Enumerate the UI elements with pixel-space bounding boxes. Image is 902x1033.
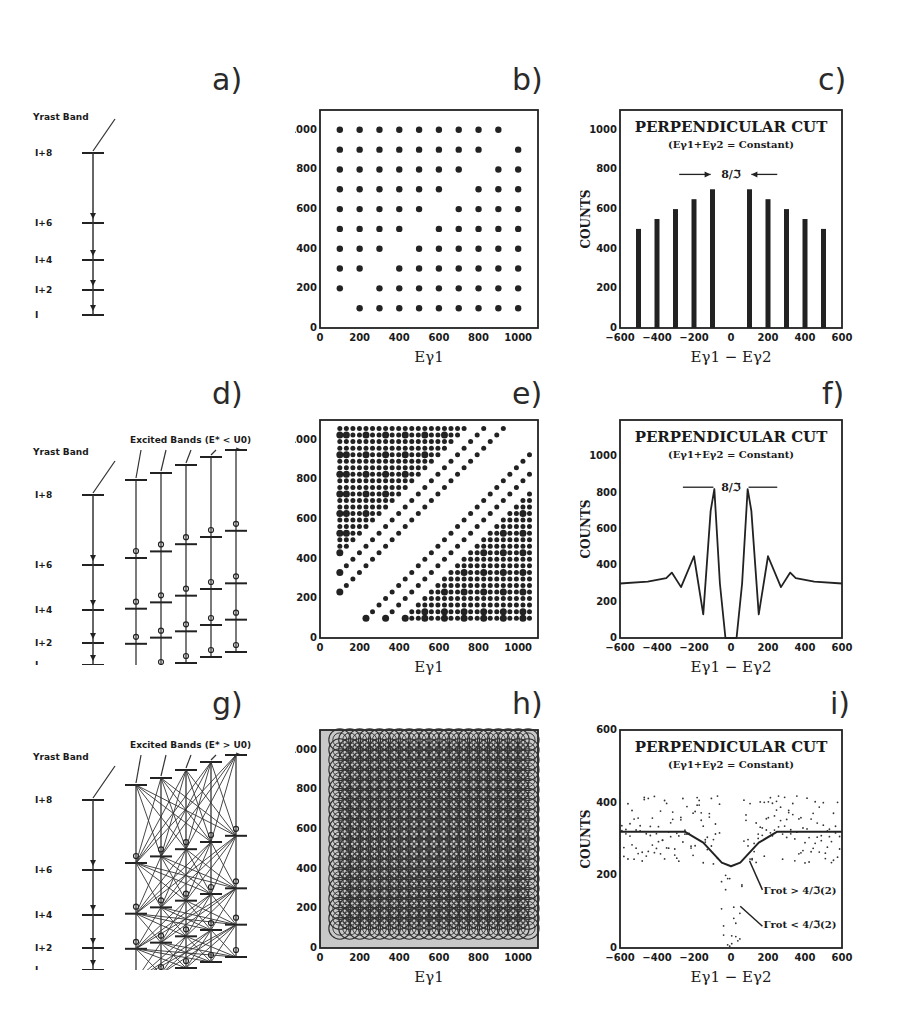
x-axis-label: Eγ1 − Eγ2 (690, 348, 771, 366)
y-tick: 600 (596, 725, 617, 735)
yrast-band-label: Yrast Band (32, 447, 89, 457)
level-label: I+8 (35, 490, 52, 500)
level-label: I+4 (35, 910, 52, 920)
x-tick: 600 (832, 332, 853, 343)
spacing-label: 8/ℑ (721, 481, 741, 494)
panel-label-g: g) (212, 686, 243, 721)
cut-title: PERPENDICULAR CUT (635, 428, 829, 446)
y-tick: 0 (610, 322, 617, 333)
x-tick: 0 (317, 332, 324, 343)
cut-plot-c: −600−400−200020040060002004006008001000E… (580, 105, 880, 395)
cut-title: PERPENDICULAR CUT (635, 738, 829, 756)
y-tick: 800 (596, 487, 617, 498)
y-tick: 800 (596, 163, 617, 174)
bar (636, 229, 641, 328)
x-tick: −600 (605, 332, 634, 343)
y-tick: 0 (310, 942, 317, 953)
level-label: I+4 (35, 605, 52, 615)
x-tick: 200 (758, 952, 779, 963)
bar (710, 189, 715, 328)
y-tick: 200 (296, 282, 317, 293)
y-tick: 600 (296, 513, 317, 524)
x-tick: 800 (468, 332, 489, 343)
x-tick: −400 (642, 332, 671, 343)
bar (692, 199, 697, 328)
panel-label-a: a) (212, 62, 242, 97)
x-tick: 600 (832, 952, 853, 963)
x-tick: −400 (642, 952, 671, 963)
x-tick: 400 (389, 952, 410, 963)
level-label: I+6 (35, 560, 52, 570)
level-label: I+2 (35, 285, 52, 295)
cut-plot-i: −600−400−20002004006000200400600Eγ1 − Eγ… (580, 725, 880, 1015)
level-scheme-a: Yrast BandI+8I+6I+4I+2I (0, 110, 300, 340)
bar (673, 209, 678, 328)
x-axis-label: Eγ1 (414, 968, 443, 986)
bar (803, 219, 808, 328)
level-label: I+8 (35, 148, 52, 158)
y-tick: 200 (596, 596, 617, 607)
x-tick: 1000 (504, 332, 532, 343)
bar (821, 229, 826, 328)
x-tick: 0 (728, 642, 735, 653)
y-tick: 400 (296, 553, 317, 564)
x-axis-label: Eγ1 − Eγ2 (690, 968, 771, 986)
x-tick: −200 (679, 332, 708, 343)
y-tick: 600 (296, 823, 317, 834)
bar (784, 209, 789, 328)
y-tick: 200 (596, 869, 617, 880)
x-tick: 600 (428, 642, 449, 653)
y-tick: 200 (596, 282, 617, 293)
x-tick: 400 (795, 952, 816, 963)
y-tick: 1000 (295, 434, 317, 445)
x-tick: −200 (679, 952, 708, 963)
y-tick: 600 (596, 203, 617, 214)
x-axis-label: Eγ1 − Eγ2 (690, 658, 771, 676)
level-label: I+2 (35, 638, 52, 648)
yrast-band-label: Yrast Band (32, 112, 89, 122)
level-label: I+4 (35, 255, 52, 265)
y-tick: 600 (596, 523, 617, 534)
level-label: I+8 (35, 795, 52, 805)
x-tick: 0 (317, 952, 324, 963)
level-label: I+6 (35, 218, 52, 228)
x-tick: 400 (795, 332, 816, 343)
y-tick: 400 (596, 243, 617, 254)
cut-plot-f: −600−400−200020040060002004006008001000E… (580, 415, 880, 705)
y-tick: 400 (596, 797, 617, 808)
excited-bands-label: Excited Bands (E* < U0) (130, 435, 251, 445)
x-tick: 200 (349, 952, 370, 963)
y-tick: 0 (610, 942, 617, 953)
y-tick: 600 (296, 203, 317, 214)
x-tick: 0 (728, 952, 735, 963)
x-tick: 200 (758, 332, 779, 343)
level-scheme-d: Yrast BandI+8I+6I+4I+2IExcited Bands (E*… (0, 435, 300, 665)
x-tick: 400 (389, 642, 410, 653)
x-tick: 1000 (504, 642, 532, 653)
y-axis-label: COUNTS (580, 499, 593, 558)
bar (747, 189, 752, 328)
y-tick: 800 (296, 783, 317, 794)
y-tick: 200 (296, 592, 317, 603)
x-tick: 200 (349, 642, 370, 653)
level-label: I+2 (35, 943, 52, 953)
x-tick: 800 (468, 642, 489, 653)
y-tick: 800 (296, 473, 317, 484)
cut-title: PERPENDICULAR CUT (635, 118, 829, 136)
cut-curve (620, 489, 842, 638)
matrix-plot-b: 0020020040040060060080080010001000Eγ1Eγ2 (295, 105, 565, 395)
annotation-gt: Γrot > 4/ℑ(2) (763, 885, 836, 896)
y-tick: 0 (310, 322, 317, 333)
x-tick: 400 (389, 332, 410, 343)
level-scheme-g: Yrast BandI+8I+6I+4I+2IExcited Bands (E*… (0, 740, 300, 970)
panel-label-b: b) (512, 62, 543, 97)
level-label: I (35, 660, 38, 665)
y-tick: 1000 (295, 124, 317, 135)
x-tick: 1000 (504, 952, 532, 963)
x-tick: −600 (605, 952, 634, 963)
x-tick: 200 (758, 642, 779, 653)
x-tick: 600 (428, 332, 449, 343)
y-tick: 400 (296, 243, 317, 254)
level-label: I (35, 310, 38, 320)
y-tick: 400 (596, 559, 617, 570)
